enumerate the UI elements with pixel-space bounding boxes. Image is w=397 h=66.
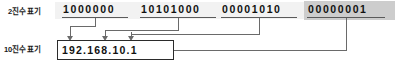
connector-2-span [105,30,179,31]
connector-3-drop [259,18,260,34]
connector-3-span [131,34,260,35]
binary-row-label: 2진수 표기 [8,8,41,16]
connector-4-drop [346,18,347,50]
binary-octet-2: 10101000 [141,3,201,16]
decimal-row-label: 10진수 표기 [4,46,41,54]
binary-octet-1: 1000000 [63,3,115,16]
diagram-canvas: 2진수 표기 1000000 10101000 00001010 0000000… [0,0,397,66]
connector-2-drop [178,18,179,30]
binary-octet-3: 00001010 [222,3,282,16]
binary-octet-4: 00000001 [308,3,368,16]
connector-1-span [70,26,96,27]
connector-1-drop [95,18,96,26]
decimal-ip-address: 192.168.10.1 [62,45,138,56]
connector-4-span [172,50,347,51]
